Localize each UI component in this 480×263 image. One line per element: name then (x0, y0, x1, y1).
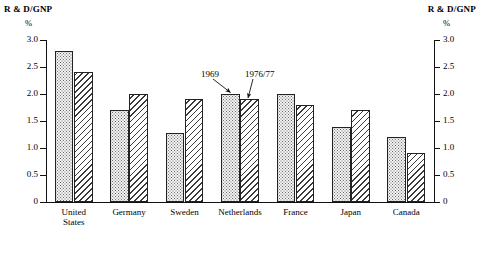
bar-1969-japan (332, 127, 351, 202)
left-tick-label: 2.0 (27, 89, 38, 98)
bar-1976-77-canada (407, 153, 426, 202)
left-axis-unit: % (25, 18, 32, 28)
category-label-france: France (268, 207, 323, 217)
bar-group (166, 40, 204, 202)
left-tick-mark (40, 202, 46, 203)
left-tick-label: 3.0 (27, 35, 38, 44)
x-axis-baseline (46, 202, 434, 203)
right-axis-caption: R & D/GNP (428, 4, 476, 14)
annotation-1969-label: 1969 (201, 69, 219, 79)
bar-group (221, 40, 259, 202)
left-tick-label: 1.5 (27, 116, 38, 125)
right-tick-mark (434, 40, 440, 41)
bar-1969-germany (110, 110, 129, 202)
bar-1976-77-netherlands (240, 99, 259, 202)
right-tick-mark (434, 202, 440, 203)
right-axis-unit: % (443, 18, 450, 28)
right-tick-label: 2.0 (443, 89, 454, 98)
bar-1976-77-france (296, 105, 315, 202)
bar-group (55, 40, 93, 202)
bar-1969-canada (387, 137, 406, 202)
annotation-1976-77-label: 1976/77 (245, 69, 275, 79)
chart-figure: R & D/GNP R & D/GNP % % 3.03.02.52.52.02… (0, 0, 480, 263)
category-label-line: States (46, 217, 101, 227)
right-tick-label: 1.0 (443, 143, 454, 152)
bar-group (277, 40, 315, 202)
bar-1976-77-sweden (185, 99, 204, 202)
bar-1969-france (277, 94, 296, 202)
left-tick-label: 0.5 (27, 170, 38, 179)
category-label-line: Netherlands (212, 207, 267, 217)
bar-1969-netherlands (221, 94, 240, 202)
right-tick-label: 0 (443, 197, 448, 206)
category-label-canada: Canada (379, 207, 434, 217)
left-tick-label: 0 (34, 197, 39, 206)
right-tick-mark (434, 175, 440, 176)
left-axis-caption: R & D/GNP (4, 4, 52, 14)
category-label-united-states: UnitedStates (46, 207, 101, 227)
category-label-line: United (46, 207, 101, 217)
bar-group (387, 40, 425, 202)
right-tick-label: 2.5 (443, 62, 454, 71)
category-label-line: Sweden (157, 207, 212, 217)
category-label-line: Japan (323, 207, 378, 217)
bar-layer (46, 40, 434, 202)
bar-1969-united-states (55, 51, 74, 202)
bar-1976-77-japan (351, 110, 370, 202)
bar-group (332, 40, 370, 202)
category-label-netherlands: Netherlands (212, 207, 267, 217)
right-tick-mark (434, 121, 440, 122)
category-label-germany: Germany (101, 207, 156, 217)
right-tick-mark (434, 94, 440, 95)
category-label-line: Canada (379, 207, 434, 217)
right-tick-label: 1.5 (443, 116, 454, 125)
right-tick-mark (434, 67, 440, 68)
category-label-line: France (268, 207, 323, 217)
right-tick-label: 0.5 (443, 170, 454, 179)
left-tick-label: 1.0 (27, 143, 38, 152)
category-label-japan: Japan (323, 207, 378, 217)
right-tick-label: 3.0 (443, 35, 454, 44)
bar-1976-77-germany (129, 94, 148, 202)
plot-area: 3.03.02.52.52.02.01.51.51.01.00.50.500 (46, 40, 434, 202)
category-label-sweden: Sweden (157, 207, 212, 217)
left-tick-label: 2.5 (27, 62, 38, 71)
bar-group (110, 40, 148, 202)
bar-1976-77-united-states (74, 72, 93, 202)
right-tick-mark (434, 148, 440, 149)
bar-1969-sweden (166, 133, 185, 202)
category-label-line: Germany (101, 207, 156, 217)
